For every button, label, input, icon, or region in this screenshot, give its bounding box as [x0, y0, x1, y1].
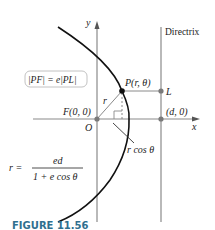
origin-label: O — [85, 122, 92, 133]
boxed-equation: |PF| = e|PL| — [28, 75, 77, 85]
polar-equation-denominator: 1 + e cos θ — [33, 171, 78, 182]
r-label: r — [103, 95, 107, 106]
r-segment — [97, 91, 122, 119]
right-angle-mark — [114, 111, 122, 119]
y-axis-label: y — [85, 17, 91, 28]
p-point — [119, 88, 125, 94]
p-label: P(r, θ) — [124, 77, 151, 89]
l-label: L — [165, 86, 172, 97]
r-cos-leader — [113, 123, 134, 143]
y-axis-arrow — [95, 21, 100, 29]
focus-label: F(0, 0) — [62, 106, 91, 118]
r-cos-label: r cos θ — [127, 144, 154, 155]
conic-polar-diagram: y x O Directrix r r cos θ F(0, 0) P(r, θ… — [0, 0, 215, 230]
l-point — [158, 88, 163, 93]
conic-curve — [58, 27, 129, 222]
focus-point — [94, 116, 99, 121]
directrix-label: Directrix — [165, 27, 200, 37]
x-axis-label: x — [191, 121, 197, 132]
d-point — [158, 116, 163, 121]
d-label: (d, 0) — [166, 106, 188, 118]
figure-caption: FIGURE 11.56 — [12, 220, 89, 230]
polar-equation-lhs: r = — [9, 162, 22, 173]
polar-equation-numerator: ed — [53, 155, 63, 166]
